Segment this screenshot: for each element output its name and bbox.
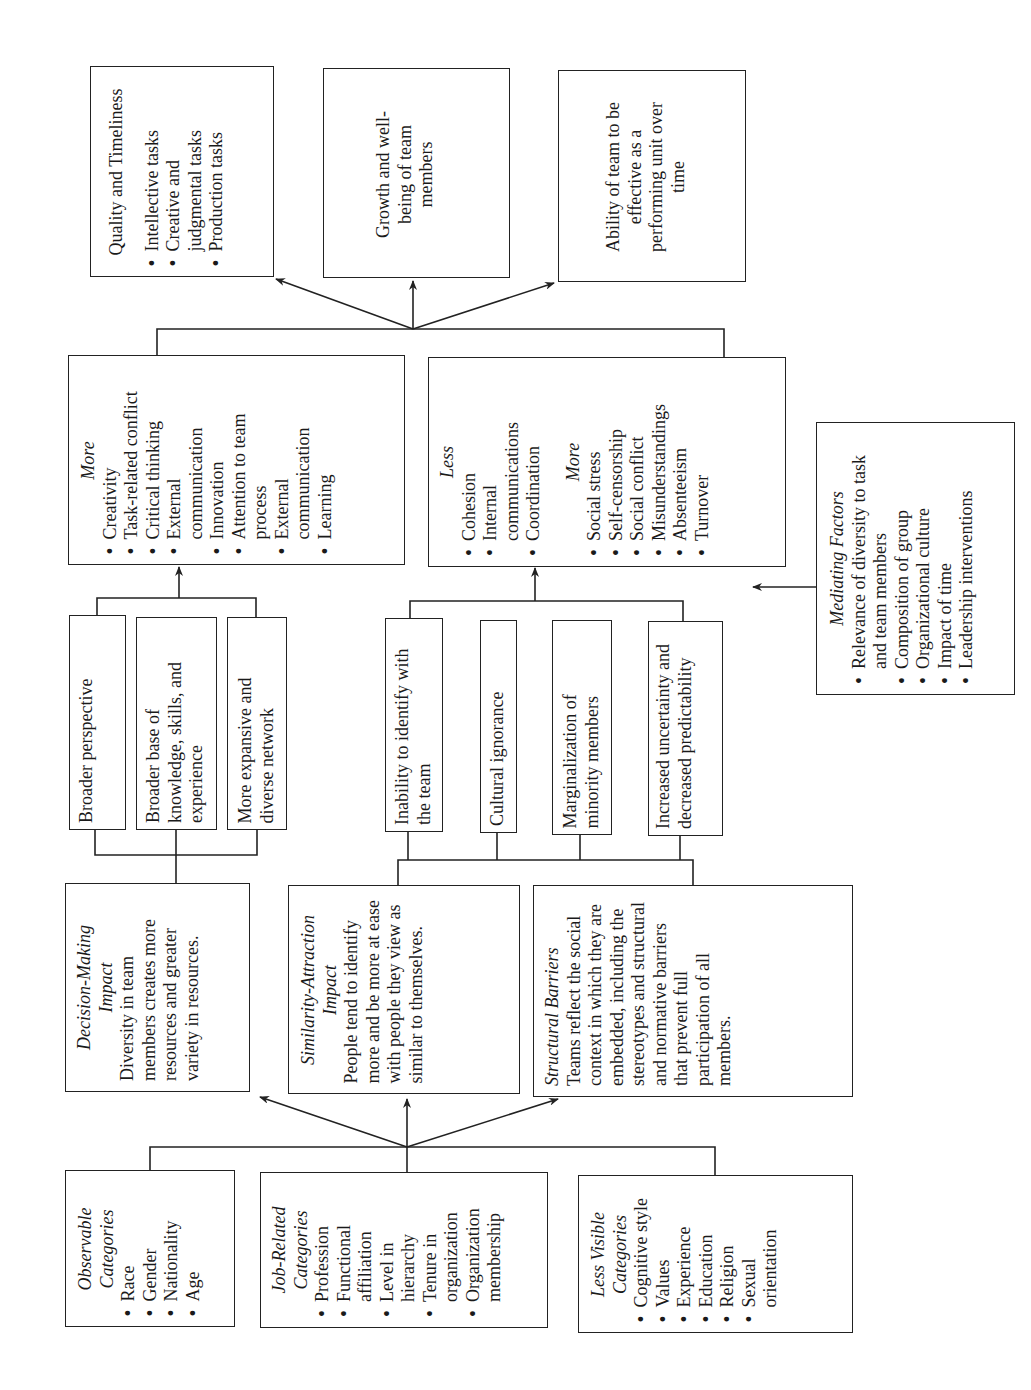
structural-barriers-box: Structural Barriers Teams reflect the so… xyxy=(533,885,853,1097)
box-text: Marginalization of minority members xyxy=(559,629,602,828)
list-item: Absenteeism xyxy=(670,368,692,556)
box-text: Inability to identify with the team xyxy=(392,627,435,825)
list-item: External communication xyxy=(163,366,206,554)
box-title: Similarity-Attraction xyxy=(297,896,319,1083)
list-item: Internal communications xyxy=(480,368,523,556)
box-title: Impact xyxy=(319,896,341,1083)
quality-timeliness-outcome-box: Quality and Timeliness Intellective task… xyxy=(90,66,274,277)
list-item: Leadership interventions xyxy=(956,433,978,684)
list-item: Level in hierarchy xyxy=(377,1183,420,1317)
box-text: Cultural ignorance xyxy=(487,629,509,826)
bullet-list: Relevance of diversity to task and team … xyxy=(849,433,978,684)
less-title: Less xyxy=(437,368,459,556)
list-item: External communication xyxy=(271,366,314,554)
list-item: Impact of time xyxy=(935,433,957,684)
box-title: More xyxy=(77,366,99,554)
list-item: Composition of group xyxy=(892,433,914,684)
list-item: Profession xyxy=(312,1183,334,1317)
list-item: Innovation xyxy=(206,366,228,554)
bullet-list: Creativity Task-related conflict Critica… xyxy=(99,366,336,554)
list-item: Religion xyxy=(716,1186,738,1322)
list-item: Gender xyxy=(139,1181,161,1316)
list-item: Cognitive style xyxy=(630,1186,652,1322)
spacer xyxy=(545,368,563,556)
box-title: Impact xyxy=(96,894,118,1081)
bullet-list: Profession Functional affiliation Level … xyxy=(312,1183,506,1317)
box-text: Diversity in team members creates more r… xyxy=(117,894,203,1081)
more-title: More xyxy=(563,368,585,556)
benefit-box-broader-perspective: Broader perspective xyxy=(69,615,126,830)
list-item: Production tasks xyxy=(205,77,227,266)
list-item: Self-censorship xyxy=(606,368,628,556)
list-item: Social conflict xyxy=(627,368,649,556)
box-title: Observable Categories xyxy=(74,1181,117,1316)
box-text: Ability of team to be effective as a per… xyxy=(603,97,689,257)
similarity-attraction-impact-box: Similarity-Attraction Impact People tend… xyxy=(288,885,520,1094)
box-title: Less Visible Categories xyxy=(587,1186,630,1322)
less-list: Cohesion Internal communications Coordin… xyxy=(459,368,545,556)
list-item: Relevance of diversity to task and team … xyxy=(849,433,892,684)
list-item: Organization membership xyxy=(463,1183,506,1317)
box-title: Structural Barriers xyxy=(542,896,564,1086)
list-item: Social stress xyxy=(584,368,606,556)
list-item: Learning xyxy=(314,366,336,554)
list-item: Intellective tasks xyxy=(141,77,163,266)
box-text: Broader perspective xyxy=(76,624,98,823)
list-item: Experience xyxy=(673,1186,695,1322)
box-text: Increased uncertainty and decreased pred… xyxy=(653,630,696,829)
list-item: Organizational culture xyxy=(913,433,935,684)
barrier-box-marginalization: Marginalization of minority members xyxy=(552,620,612,835)
box-text: Growth and well-being of team members xyxy=(372,95,437,253)
list-item: Coordination xyxy=(523,368,545,556)
list-item: Creativity xyxy=(99,366,121,554)
growth-wellbeing-outcome-box: Growth and well-being of team members xyxy=(323,68,510,278)
decision-making-impact-box: Decision-Making Impact Diversity in team… xyxy=(65,883,250,1092)
box-title: Job-Related Categories xyxy=(269,1183,312,1317)
box-text: More expansive and diverse network xyxy=(234,626,277,823)
list-item: Functional affiliation xyxy=(334,1183,377,1317)
list-item: Values xyxy=(652,1186,674,1322)
benefit-box-broader-base: Broader base of knowledge, skills, and e… xyxy=(136,617,217,830)
box-title: Quality and Timeliness xyxy=(105,77,127,266)
list-item: Turnover xyxy=(692,368,714,556)
observable-categories-box: Observable Categories Race Gender Nation… xyxy=(65,1170,235,1327)
barrier-box-increased-uncertainty: Increased uncertainty and decreased pred… xyxy=(648,621,723,836)
mediating-factors-box: Mediating Factors Relevance of diversity… xyxy=(816,422,1015,695)
less-more-processes-box: Less Cohesion Internal communications Co… xyxy=(428,357,786,567)
box-title: Mediating Factors xyxy=(827,433,849,684)
job-related-categories-box: Job-Related Categories Profession Functi… xyxy=(260,1172,548,1328)
more-positive-processes-box: More Creativity Task-related conflict Cr… xyxy=(68,355,405,565)
list-item: Cohesion xyxy=(459,368,481,556)
bullet-list: Intellective tasks Creative and judgment… xyxy=(141,77,227,266)
less-visible-categories-box: Less Visible Categories Cognitive style … xyxy=(578,1175,853,1333)
list-item: Race xyxy=(117,1181,139,1316)
list-item: Tenure in organization xyxy=(420,1183,463,1317)
list-item: Age xyxy=(182,1181,204,1316)
box-text: Teams reflect the social context in whic… xyxy=(564,896,736,1086)
list-item: Task-related conflict xyxy=(120,366,142,554)
list-item: Attention to team process xyxy=(228,366,271,554)
list-item: Creative and judgmental tasks xyxy=(162,77,205,266)
barrier-box-cultural-ignorance: Cultural ignorance xyxy=(480,620,517,833)
box-text: Broader base of knowledge, skills, and e… xyxy=(143,626,208,823)
list-item: Sexual orientation xyxy=(738,1186,781,1322)
bullet-list: Race Gender Nationality Age xyxy=(117,1181,203,1316)
list-item: Critical thinking xyxy=(142,366,164,554)
list-item: Nationality xyxy=(160,1181,182,1316)
bullet-list: Cognitive style Values Experience Educat… xyxy=(630,1186,781,1322)
more-list: Social stress Self-censorship Social con… xyxy=(584,368,713,556)
list-item: Misunderstandings xyxy=(649,368,671,556)
box-text: People tend to identify more and be more… xyxy=(340,896,426,1083)
box-title: Decision-Making xyxy=(74,894,96,1081)
benefit-box-expansive-network: More expansive and diverse network xyxy=(227,617,287,830)
list-item: Education xyxy=(695,1186,717,1322)
team-ability-outcome-box: Ability of team to be effective as a per… xyxy=(558,70,746,282)
barrier-box-inability-to-identify: Inability to identify with the team xyxy=(385,618,443,832)
